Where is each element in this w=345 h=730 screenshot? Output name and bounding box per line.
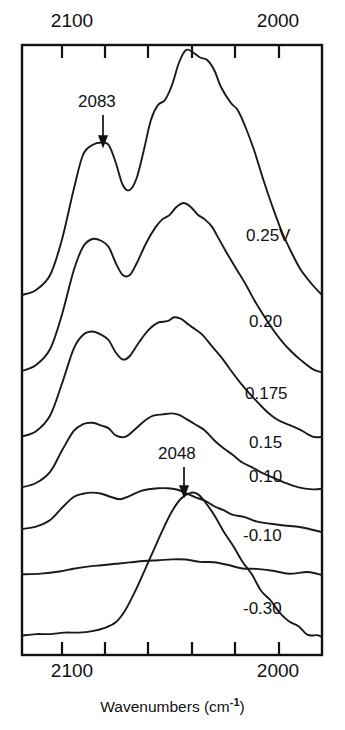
spectrum-trace (22, 49, 322, 295)
trace-label-0-10: 0.10 (249, 467, 282, 487)
x-axis-title-close: ) (240, 698, 245, 715)
trace-label-0-15: 0.15 (249, 433, 282, 453)
peak-annotation-2048: 2048 (158, 444, 196, 464)
axis-ticks (62, 45, 279, 655)
spectra-traces (22, 49, 322, 637)
spectrum-trace (22, 559, 322, 575)
trace-label-0-20: 0.20 (249, 312, 282, 332)
plot-canvas (0, 0, 345, 730)
x-axis-title-main: Wavenumbers (cm (100, 698, 229, 715)
x-axis-title-exponent: -1 (230, 696, 240, 708)
spectra-figure: 2100 2000 2083 2048 0.25V 0 (0, 0, 345, 730)
bottom-axis-label-right: 2000 (206, 660, 345, 682)
x-axis-title: Wavenumbers (cm-1) (0, 696, 345, 716)
trace-label-0-175: 0.175 (245, 384, 288, 404)
trace-label-neg-0-10: -0.10 (243, 526, 282, 546)
trace-label-0-25v: 0.25V (246, 226, 290, 246)
bottom-axis-label-left: 2100 (0, 660, 144, 682)
peak-annotation-2083: 2083 (78, 92, 116, 112)
plot-frame (22, 45, 322, 655)
trace-label-neg-0-30: -0.30 (243, 599, 282, 619)
peak-arrows (99, 115, 188, 496)
